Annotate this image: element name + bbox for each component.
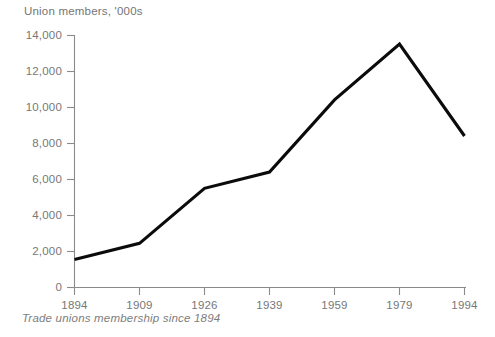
x-tick-label-1926: 1926 <box>191 299 217 311</box>
y-tick-label-12000: 12,000 <box>26 65 62 77</box>
data-series-line <box>75 44 465 260</box>
x-tick-label-1994: 1994 <box>451 299 478 311</box>
x-tick-label-1894: 1894 <box>61 299 88 311</box>
y-tick-label-6000: 6,000 <box>32 173 62 185</box>
y-tick-label-10000: 10,000 <box>26 101 62 113</box>
x-tick-label-1909: 1909 <box>126 299 152 311</box>
y-axis: 14,000 12,000 10,000 8,000 6,000 4,000 2… <box>26 29 75 293</box>
y-tick-label-2000: 2,000 <box>32 245 62 257</box>
x-tick-label-1979: 1979 <box>386 299 412 311</box>
x-axis: 1894 1909 1926 1939 1959 1979 1994 <box>61 288 478 312</box>
chart-figure: Union members, '000s 14,000 12,000 10,00… <box>0 0 495 337</box>
x-tick-label-1959: 1959 <box>321 299 347 311</box>
y-tick-label-8000: 8,000 <box>32 137 62 149</box>
y-tick-label-0: 0 <box>55 281 62 293</box>
line-chart-plot: 14,000 12,000 10,000 8,000 6,000 4,000 2… <box>0 0 495 337</box>
y-tick-label-4000: 4,000 <box>32 209 62 221</box>
x-tick-label-1939: 1939 <box>256 299 282 311</box>
y-tick-label-14000: 14,000 <box>26 29 62 41</box>
chart-caption: Trade unions membership since 1894 <box>22 312 220 324</box>
